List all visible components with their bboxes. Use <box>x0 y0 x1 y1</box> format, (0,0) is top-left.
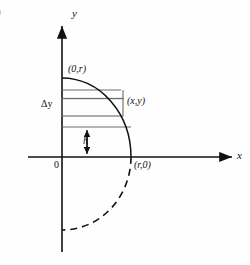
point-label-r0: (r,0) <box>134 160 151 170</box>
inscribed-rectangles <box>62 90 131 127</box>
x-axis-label: x <box>237 150 242 161</box>
y-axis-label: y <box>72 8 77 19</box>
lower-quarter-arc-dashed <box>62 157 131 230</box>
h-label: h <box>83 136 88 146</box>
point-label-xy: (x,y) <box>127 96 145 106</box>
math-diagram-svg <box>0 0 250 265</box>
origin-label: 0 <box>54 160 59 170</box>
rect-upper <box>62 99 123 117</box>
delta-y-label: Δy <box>41 99 52 109</box>
corner-mark: ) <box>0 6 1 17</box>
figure-container: ) y x (0,r) (x,y) (r,0) Δy h 0 <box>0 0 250 265</box>
point-label-top: (0,r) <box>68 64 86 74</box>
